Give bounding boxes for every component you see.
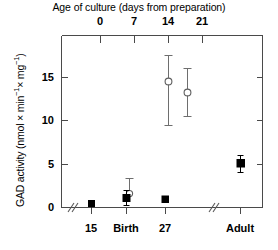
series-open-circles — [126, 56, 192, 197]
top-axis-ticks — [101, 36, 203, 43]
data-point-square-birth — [123, 194, 131, 202]
x-axis-ticks-bottom — [92, 208, 241, 214]
y-axis-ticks-left — [62, 78, 68, 165]
data-point-square-adult — [237, 159, 246, 168]
data-point-square-27d — [162, 196, 170, 204]
errorbar-circle-7d — [126, 179, 134, 192]
y-axis-ticks-right — [257, 78, 263, 165]
data-point-square-15d — [88, 200, 95, 207]
data-point-circle-14d — [165, 78, 172, 85]
series-filled-squares — [88, 156, 245, 208]
errorbar-circle-14d — [165, 56, 173, 126]
plot-area-svg — [0, 0, 278, 250]
data-point-circle-18d — [184, 89, 191, 96]
chart-figure: Age of culture (days from preparation) 0… — [0, 0, 278, 250]
